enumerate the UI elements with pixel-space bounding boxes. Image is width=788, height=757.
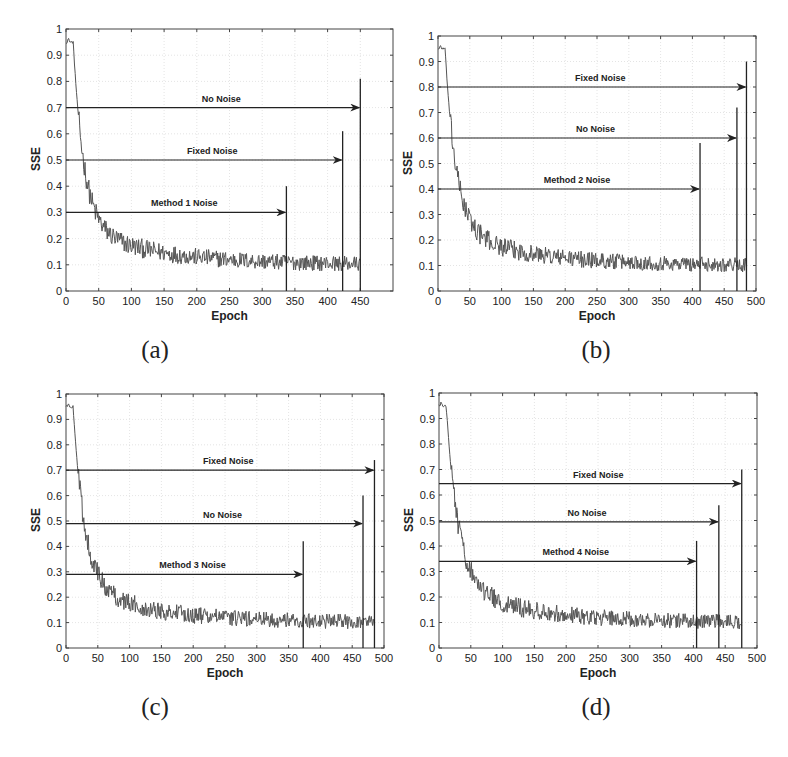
svg-text:1: 1 <box>429 387 435 399</box>
annotation-label: No Noise <box>567 508 606 518</box>
svg-text:100: 100 <box>493 652 511 664</box>
svg-text:400: 400 <box>684 652 702 664</box>
svg-text:350: 350 <box>652 652 670 664</box>
svg-text:0.8: 0.8 <box>420 438 435 450</box>
annotation-no-noise: No Noise <box>439 505 719 648</box>
annotation-method-4-noise: Method 4 Noise <box>439 541 697 648</box>
svg-text:0.9: 0.9 <box>420 413 435 425</box>
svg-text:0.7: 0.7 <box>420 464 435 476</box>
svg-text:0.5: 0.5 <box>420 515 435 527</box>
grid <box>439 393 757 648</box>
svg-text:200: 200 <box>557 652 575 664</box>
svg-text:0.1: 0.1 <box>420 617 435 629</box>
svg-text:0.4: 0.4 <box>420 540 435 552</box>
annotation-label: Fixed Noise <box>573 470 624 480</box>
caption-d: (d) <box>566 693 626 721</box>
y-axis-label: SSE <box>402 500 416 540</box>
svg-text:300: 300 <box>621 652 639 664</box>
chart-d: 05010015020025030035040045050000.10.20.3… <box>0 0 788 757</box>
svg-text:0: 0 <box>429 642 435 654</box>
annotation-label: Method 4 Noise <box>543 547 610 557</box>
svg-text:250: 250 <box>589 652 607 664</box>
svg-text:0.2: 0.2 <box>420 591 435 603</box>
svg-text:150: 150 <box>525 652 543 664</box>
svg-text:50: 50 <box>465 652 477 664</box>
svg-text:0.3: 0.3 <box>420 566 435 578</box>
svg-text:500: 500 <box>748 652 766 664</box>
svg-text:0: 0 <box>436 652 442 664</box>
svg-text:0.6: 0.6 <box>420 489 435 501</box>
x-axis-label: Epoch <box>568 666 628 680</box>
svg-text:450: 450 <box>716 652 734 664</box>
